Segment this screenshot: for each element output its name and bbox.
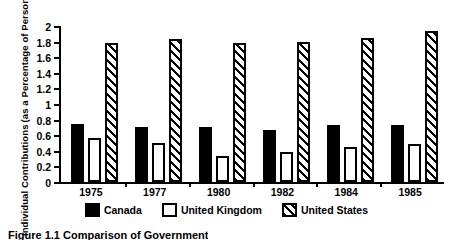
bar-canada-1984 [327, 125, 340, 182]
legend-label-united-kingdom: United Kingdom [181, 204, 262, 216]
y-axis-tick-label: 1 [45, 99, 51, 111]
y-axis-tick: 0.6 [54, 135, 61, 137]
bar-group-1980 [199, 26, 246, 182]
bar-canada-1980 [199, 127, 212, 182]
bar-canada-1977 [135, 127, 148, 182]
y-axis-tick: 1.2 [54, 88, 61, 90]
bar-group-1985 [391, 26, 438, 182]
y-axis-tick-label: 0.8 [36, 115, 51, 127]
diagonal-hatch-swatch [282, 203, 297, 217]
bar-canada-1982 [263, 130, 276, 182]
y-axis-tick: 2 [54, 26, 61, 28]
y-axis-tick: 1.4 [54, 73, 61, 75]
bar-united-states-1975 [105, 43, 118, 182]
legend-label-united-states: United States [301, 204, 368, 216]
plot-area: 00.20.40.60.811.21.41.61.82 [59, 26, 444, 184]
y-axis-tick-label: 1.6 [36, 52, 51, 64]
bar-united-kingdom-1984 [344, 147, 357, 182]
solid-black-swatch [85, 203, 100, 217]
legend-item-united-states: United States [282, 203, 368, 217]
bar-united-kingdom-1977 [152, 143, 165, 182]
bar-united-kingdom-1982 [280, 152, 293, 182]
bar-united-kingdom-1980 [216, 156, 229, 182]
bar-united-states-1977 [169, 39, 182, 182]
y-axis-tick-label: 1.8 [36, 37, 51, 49]
figure-caption: Figure 1.1 Comparison of Government [8, 229, 208, 240]
bar-group-1982 [263, 26, 310, 182]
chart-legend: CanadaUnited KingdomUnited States [0, 203, 453, 217]
y-axis-tick: 1.6 [54, 57, 61, 59]
y-axis-tick-label: 2 [45, 21, 51, 33]
bar-group-1975 [71, 26, 118, 182]
bar-united-kingdom-1975 [88, 138, 101, 182]
y-axis-tick-label: 0.4 [36, 146, 51, 158]
legend-item-united-kingdom: United Kingdom [162, 203, 262, 217]
y-axis-tick: 1 [54, 104, 61, 106]
legend-label-canada: Canada [104, 204, 142, 216]
chart-figure: Individual Contributions (as a Percentag… [0, 0, 453, 240]
bar-united-states-1984 [361, 38, 374, 182]
y-axis-tick: 0.8 [54, 120, 61, 122]
white-outline-swatch [162, 203, 177, 217]
y-axis-tick-label: 1.2 [36, 83, 51, 95]
y-axis-title-line2: (as a Percentage of Personal Income) [19, 0, 30, 122]
x-axis-label-1985: 1985 [378, 186, 442, 198]
y-axis-title-line1: Individual Contributions [19, 124, 30, 236]
x-axis-label-1982: 1982 [251, 186, 315, 198]
plot-inner: 00.20.40.60.811.21.41.61.82 [61, 26, 444, 182]
y-axis-tick: 0 [54, 182, 61, 184]
bar-united-states-1982 [297, 42, 310, 182]
bar-group-1977 [135, 26, 182, 182]
bar-canada-1975 [71, 124, 84, 182]
y-axis-tick-label: 0.6 [36, 130, 51, 142]
bar-united-states-1980 [233, 43, 246, 182]
x-axis-label-1977: 1977 [123, 186, 187, 198]
bar-united-kingdom-1985 [408, 144, 421, 182]
y-axis-tick-label: 1.4 [36, 68, 51, 80]
y-axis-tick: 1.8 [54, 42, 61, 44]
bar-united-states-1985 [425, 31, 438, 182]
y-axis-tick-label: 0 [45, 177, 51, 189]
x-axis-label-1984: 1984 [314, 186, 378, 198]
legend-item-canada: Canada [85, 203, 142, 217]
x-axis-label-1975: 1975 [59, 186, 123, 198]
y-axis-title: Individual Contributions (as a Percentag… [9, 3, 39, 183]
y-axis-tick-label: 0.2 [36, 161, 51, 173]
x-axis-label-1980: 1980 [187, 186, 251, 198]
y-axis-tick: 0.4 [54, 151, 61, 153]
bar-group-1984 [327, 26, 374, 182]
y-axis-tick: 0.2 [54, 166, 61, 168]
bar-canada-1985 [391, 125, 404, 182]
